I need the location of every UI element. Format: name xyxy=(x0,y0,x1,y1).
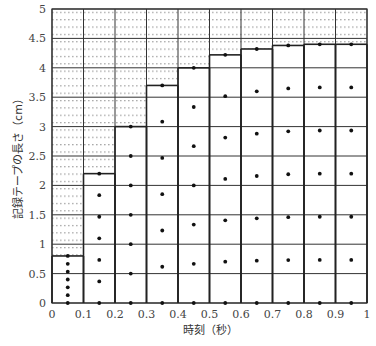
tape-dot xyxy=(318,258,322,262)
tape-dot xyxy=(318,301,322,305)
x-tick-label: 0.4 xyxy=(169,308,187,321)
tape-dot xyxy=(318,215,322,219)
tape-dot xyxy=(160,120,164,124)
tape-dot xyxy=(223,260,227,264)
tape-dot xyxy=(97,215,101,219)
tape-dot xyxy=(318,129,322,133)
dotted-region-3 xyxy=(147,9,179,85)
y-tick-label: 2.5 xyxy=(29,150,47,163)
tape-dot xyxy=(286,129,290,133)
tape-dot xyxy=(255,259,259,263)
dotted-region-1 xyxy=(84,9,116,174)
x-tick-label: 0.5 xyxy=(201,308,219,321)
tape-dot xyxy=(160,229,164,233)
tape-dot xyxy=(318,42,322,46)
tape-dot xyxy=(97,301,101,305)
x-tick-label: 0.9 xyxy=(327,308,345,321)
tape-dot xyxy=(66,278,70,282)
tape-dot xyxy=(318,86,322,90)
tape-dot xyxy=(223,136,227,140)
y-tick-label: 0.5 xyxy=(29,268,47,281)
tape-dot xyxy=(160,301,164,305)
dotted-region-6 xyxy=(241,9,273,49)
tape-dot xyxy=(349,86,353,90)
dotted-region-0 xyxy=(52,9,84,256)
tape-dot xyxy=(349,258,353,262)
dotted-region-5 xyxy=(210,9,242,55)
y-tick-label: 1.5 xyxy=(29,209,47,222)
tape-dot xyxy=(223,177,227,181)
y-tick-label: 4 xyxy=(39,62,46,75)
tape-dot xyxy=(97,280,101,284)
y-tick-label: 0 xyxy=(39,297,46,310)
x-tick-label: 0.2 xyxy=(106,308,124,321)
dotted-region-9 xyxy=(336,9,368,44)
tape-dot xyxy=(192,223,196,227)
tape-dot xyxy=(97,172,101,176)
dotted-region-7 xyxy=(273,9,305,45)
tape-dot xyxy=(160,265,164,269)
tape-dot xyxy=(286,258,290,262)
tape-dot xyxy=(286,86,290,90)
tape-dot xyxy=(286,215,290,219)
tape-dot xyxy=(255,89,259,93)
tape-dot xyxy=(129,213,133,217)
tape-dot xyxy=(129,184,133,188)
tape-dot xyxy=(349,42,353,46)
tape-dot xyxy=(349,301,353,305)
tape-dot xyxy=(318,172,322,176)
tape-chart: 00.10.20.30.40.50.60.70.80.91 00.511.522… xyxy=(0,0,376,346)
tape-dot xyxy=(223,53,227,57)
y-tick-label: 5 xyxy=(39,3,46,16)
y-tick-label: 1 xyxy=(39,238,46,251)
tape-dot xyxy=(255,301,259,305)
tape-dot xyxy=(129,301,133,305)
tape-dot xyxy=(97,236,101,240)
x-axis-ticks: 00.10.20.30.40.50.60.70.80.91 xyxy=(49,308,371,321)
tape-dot xyxy=(66,293,70,297)
tape-dot xyxy=(97,258,101,262)
x-axis-label: 時刻（秒） xyxy=(183,323,238,337)
tape-dot xyxy=(349,172,353,176)
x-tick-label: 0.8 xyxy=(295,308,313,321)
y-tick-label: 3 xyxy=(39,121,46,134)
tape-dot xyxy=(192,301,196,305)
tape-dot xyxy=(129,242,133,246)
tape-dot xyxy=(192,184,196,188)
tape-dot xyxy=(286,172,290,176)
tape-dot xyxy=(97,193,101,197)
tape-dot xyxy=(255,174,259,178)
tape-dot xyxy=(66,301,70,305)
tape-dot xyxy=(129,272,133,276)
y-axis-label: 記録テープの長さ（cm） xyxy=(11,93,25,219)
tape-dot xyxy=(349,215,353,219)
tape-dot xyxy=(286,301,290,305)
y-tick-label: 4.5 xyxy=(29,32,47,45)
dotted-region-8 xyxy=(304,9,336,44)
y-axis-ticks: 00.511.522.533.544.55 xyxy=(29,3,47,310)
y-tick-label: 3.5 xyxy=(29,91,47,104)
tape-dot xyxy=(129,125,133,129)
x-tick-label: 0 xyxy=(49,308,56,321)
x-tick-label: 0.6 xyxy=(232,308,250,321)
tape-dot xyxy=(66,254,70,258)
tape-dot xyxy=(192,144,196,148)
tape-dot xyxy=(192,66,196,70)
tape-dot xyxy=(286,44,290,48)
tape-dot xyxy=(223,94,227,98)
tape-dot xyxy=(223,218,227,222)
tape-dot xyxy=(160,192,164,196)
x-tick-label: 0.3 xyxy=(138,308,156,321)
y-tick-label: 2 xyxy=(39,179,46,192)
x-tick-label: 1 xyxy=(364,308,371,321)
tape-dot xyxy=(349,129,353,133)
tape-dot xyxy=(66,262,70,266)
tape-dot xyxy=(223,301,227,305)
tape-dot xyxy=(255,132,259,136)
tape-dot xyxy=(66,270,70,274)
tape-dot xyxy=(255,216,259,220)
tape-dot xyxy=(192,105,196,109)
x-tick-label: 0.1 xyxy=(75,308,93,321)
tape-dot xyxy=(129,154,133,158)
x-tick-label: 0.7 xyxy=(264,308,282,321)
